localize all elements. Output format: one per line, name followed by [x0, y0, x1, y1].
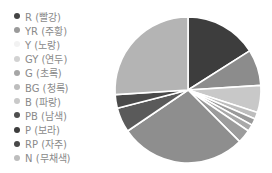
- legend-swatch: [14, 155, 20, 161]
- legend-label: RP (자주): [25, 136, 67, 151]
- pie-chart: [112, 14, 264, 166]
- legend-item-b: B (파랑): [14, 94, 70, 108]
- legend-swatch: [14, 112, 20, 118]
- legend-item-r: R (빨강): [14, 9, 70, 23]
- legend-item-p: P (보라): [14, 123, 70, 137]
- legend-label: YR (주황): [25, 23, 67, 38]
- chart-legend: R (빨강) YR (주황) Y (노랑) GY (연두) G (초록) BG …: [14, 9, 70, 165]
- legend-item-gy: GY (연두): [14, 52, 70, 66]
- legend-item-g: G (초록): [14, 66, 70, 80]
- legend-swatch: [14, 27, 20, 33]
- legend-swatch: [14, 127, 20, 133]
- legend-label: PB (남색): [25, 108, 67, 123]
- legend-swatch: [14, 141, 20, 147]
- legend-label: R (빨강): [25, 9, 61, 24]
- legend-label: P (보라): [25, 122, 60, 137]
- legend-label: Y (노랑): [25, 37, 60, 52]
- legend-label: G (초록): [25, 65, 62, 80]
- legend-item-n: N (무채색): [14, 151, 70, 165]
- legend-swatch: [14, 70, 20, 76]
- legend-item-bg: BG (청록): [14, 80, 70, 94]
- legend-item-rp: RP (자주): [14, 137, 70, 151]
- legend-label: N (무채색): [25, 150, 70, 165]
- legend-swatch: [14, 13, 20, 19]
- legend-label: BG (청록): [25, 80, 68, 95]
- legend-swatch: [14, 98, 20, 104]
- legend-swatch: [14, 56, 20, 62]
- pie-slices: [115, 17, 261, 163]
- legend-label: GY (연두): [25, 51, 67, 66]
- legend-swatch: [14, 84, 20, 90]
- legend-item-y: Y (노랑): [14, 37, 70, 51]
- pie-slice: [115, 17, 188, 95]
- legend-item-pb: PB (남색): [14, 108, 70, 122]
- legend-swatch: [14, 41, 20, 47]
- legend-item-yr: YR (주황): [14, 23, 70, 37]
- legend-label: B (파랑): [25, 94, 61, 109]
